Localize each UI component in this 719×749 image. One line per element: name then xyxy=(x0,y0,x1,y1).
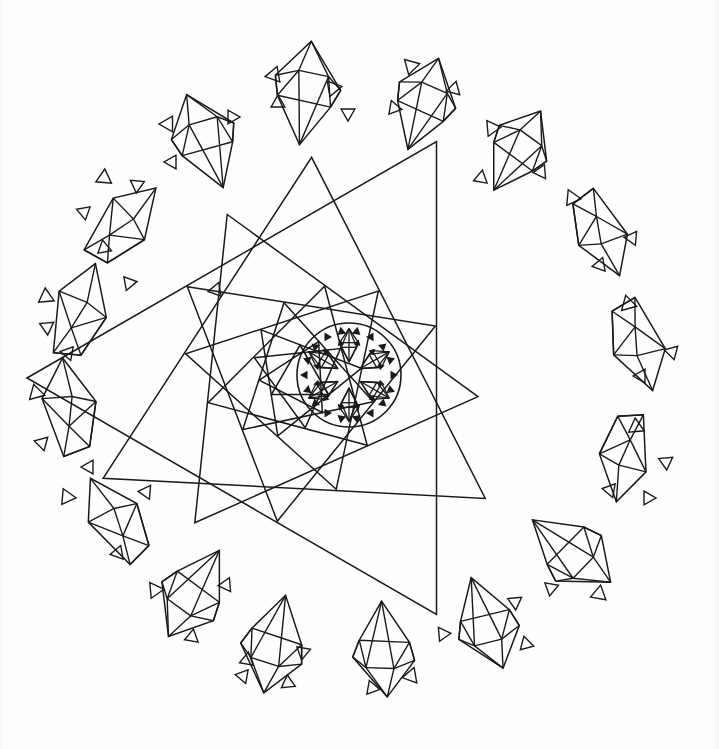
sparkle-triangle-41 xyxy=(34,437,47,450)
mandala-solid-triangle-17 xyxy=(387,357,396,365)
gem-right-mid xyxy=(599,293,677,398)
gem-facet-0 xyxy=(264,665,279,695)
line-art-illustration xyxy=(0,0,719,749)
gem-facet-11 xyxy=(519,520,586,578)
gem-facet-7 xyxy=(172,125,198,156)
gem-outline xyxy=(349,599,417,699)
sparkle-triangle-4 xyxy=(159,116,173,132)
gem-facet-5 xyxy=(171,138,182,157)
mandala-solid-triangle-16 xyxy=(378,344,387,352)
gem-facet-8 xyxy=(618,410,644,420)
gem-facet-5 xyxy=(409,642,414,661)
gem-facet-0 xyxy=(588,557,616,582)
mandala-solid-triangle-5 xyxy=(338,415,347,423)
gem-facet-11 xyxy=(361,601,386,668)
gem-facet-4 xyxy=(366,666,394,671)
gem-facet-1 xyxy=(526,111,557,146)
mandala-solid-triangle-13 xyxy=(338,327,347,335)
gem-facet-2 xyxy=(619,465,647,472)
gem-facet-0 xyxy=(520,107,541,134)
gem-facet-1 xyxy=(93,198,129,235)
gem-facet-2 xyxy=(112,198,135,219)
sparkle-triangle-18 xyxy=(633,369,645,383)
mandala-solid-triangle-14 xyxy=(352,327,361,335)
gem-facet-4 xyxy=(475,636,502,648)
gem-outline xyxy=(511,496,629,608)
mandala-inner-solid-triangle-11 xyxy=(378,364,385,371)
mandala-solid-triangle-9 xyxy=(300,371,308,380)
gem-facet-11 xyxy=(494,136,542,200)
sparkle-triangle-39 xyxy=(110,546,123,560)
sparkle-triangle-37 xyxy=(62,489,76,505)
gem-bottom-center xyxy=(349,599,417,699)
sparkle-triangle-10 xyxy=(487,121,501,137)
gem-facet-5 xyxy=(72,393,96,404)
gem-lower-left xyxy=(140,533,245,652)
gem-facet-7 xyxy=(573,527,605,557)
gem-facet-6 xyxy=(90,476,114,510)
sparkle-triangle-43 xyxy=(39,288,55,302)
sparkle-triangle-36 xyxy=(185,629,199,642)
mandala-solid-triangle-8 xyxy=(303,385,312,393)
gem-facet-7 xyxy=(191,593,220,625)
gem-left-upper xyxy=(41,256,122,365)
gem-facet-7 xyxy=(599,435,630,459)
gem-facet-4 xyxy=(166,599,193,616)
sparkle-triangle-group xyxy=(30,60,678,695)
gem-facet-6 xyxy=(226,123,240,142)
sparkle-triangle-26 xyxy=(520,636,533,649)
mandala-solid-triangle-0 xyxy=(391,371,399,380)
sparkle-triangle-33 xyxy=(281,675,295,688)
gem-facet-4 xyxy=(189,114,217,128)
sparkle-triangle-50 xyxy=(124,277,137,291)
gem-facet-1 xyxy=(429,58,457,93)
gem-facet-9 xyxy=(396,101,445,122)
gem-facet-5 xyxy=(210,602,223,620)
sparkle-triangle-12 xyxy=(474,170,488,183)
gem-facet-1 xyxy=(573,562,611,597)
mandala-inner-solid-triangle-0 xyxy=(378,380,385,387)
gem-facet-2 xyxy=(601,232,627,245)
sparkle-triangle-23 xyxy=(591,585,606,600)
gem-facet-1 xyxy=(88,510,123,547)
sparkle-triangle-20 xyxy=(659,457,673,470)
gem-bottom-right xyxy=(440,568,531,679)
gem-facet-6 xyxy=(453,621,466,639)
gem-facet-4 xyxy=(250,657,279,666)
gem-outline xyxy=(599,293,677,398)
gem-outline xyxy=(470,97,567,206)
gem-facet-4 xyxy=(69,424,90,449)
mandala-solid-triangle-12 xyxy=(325,333,333,342)
spiral-triangle-7 xyxy=(187,287,435,522)
gem-outline xyxy=(74,171,175,275)
gem-outline xyxy=(381,49,469,159)
gem-right-lower xyxy=(592,408,656,505)
gem-facet-2 xyxy=(88,507,114,524)
gem-outline xyxy=(41,256,122,365)
gem-facet-2 xyxy=(279,660,302,671)
gem-facet-4 xyxy=(299,70,329,76)
gem-facet-9 xyxy=(359,637,409,646)
gem-facet-5 xyxy=(509,608,519,627)
spiral-triangle-9 xyxy=(103,157,485,498)
mandala-solid-triangle-2 xyxy=(378,398,387,406)
sparkle-triangle-17 xyxy=(664,346,677,359)
gem-facet-7 xyxy=(392,642,411,668)
sparkle-triangle-25 xyxy=(508,597,522,610)
sparkle-triangle-28 xyxy=(402,668,417,683)
gem-right-bottom xyxy=(511,496,629,608)
gem-crystal-group xyxy=(37,38,677,699)
gem-top-left xyxy=(158,82,255,199)
sparkle-triangle-38 xyxy=(138,485,151,499)
gem-facet-10 xyxy=(471,575,501,642)
sparkle-triangle-32 xyxy=(235,670,248,684)
sparkle-triangle-42 xyxy=(81,460,93,474)
gem-facet-9 xyxy=(547,523,584,568)
spiral-triangle-starburst xyxy=(27,142,485,615)
coloring-page-canvas xyxy=(0,0,719,749)
sparkle-triangle-27 xyxy=(438,627,451,641)
gem-facet-6 xyxy=(601,242,619,277)
sparkle-triangle-7 xyxy=(405,60,420,75)
gem-facet-9 xyxy=(84,402,102,447)
mandala-solid-triangle-1 xyxy=(387,385,396,393)
